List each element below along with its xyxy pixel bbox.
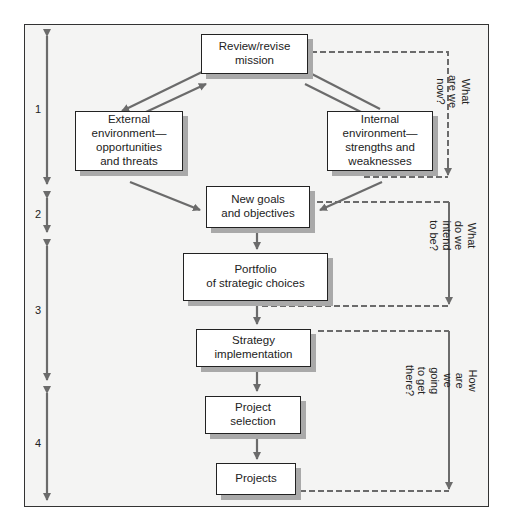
phase-label-3: 3 (35, 304, 41, 316)
node-strategy-implementation: Strategy implementation (196, 329, 311, 367)
phase-label-4: 4 (35, 437, 41, 449)
node-projects: Projects (216, 463, 296, 495)
node-review-revise-mission: Review/revise mission (201, 34, 308, 74)
node-external-environment: External environment— opportunities and … (75, 111, 183, 171)
question-what-are-we-now: What are we now? (434, 73, 472, 110)
phase-label-1: 1 (35, 103, 41, 115)
phase-label-2: 2 (35, 208, 41, 220)
node-new-goals-objectives: New goals and objectives (206, 186, 310, 228)
node-portfolio-strategic-choices: Portfolio of strategic choices (183, 253, 328, 301)
question-how-are-we-going-to-get-there: How are we going to get there? (403, 365, 479, 396)
node-project-selection: Project selection (205, 396, 301, 434)
question-what-do-we-intend-to-be: What do we intend to be? (427, 220, 478, 251)
node-internal-environment: Internal environment— strengths and weak… (327, 111, 433, 171)
